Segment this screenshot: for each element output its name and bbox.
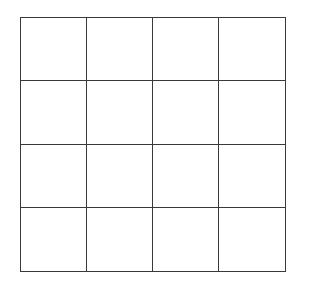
board-cell-r0-c3[interactable] <box>219 18 285 81</box>
board-cell-r2-c2[interactable] <box>153 145 219 208</box>
board-cell-r3-c3[interactable] <box>219 208 285 271</box>
game-board <box>20 17 286 272</box>
board-cell-r0-c2[interactable] <box>153 18 219 81</box>
board-cell-r2-c3[interactable] <box>219 145 285 208</box>
board-cell-r3-c0[interactable] <box>21 208 87 271</box>
board-cell-r1-c0[interactable] <box>21 81 87 144</box>
board-cell-r2-c0[interactable] <box>21 145 87 208</box>
board-cell-r0-c0[interactable] <box>21 18 87 81</box>
board-cell-r2-c1[interactable] <box>87 145 153 208</box>
board-cell-r1-c2[interactable] <box>153 81 219 144</box>
board-cell-r1-c3[interactable] <box>219 81 285 144</box>
board-cell-r3-c1[interactable] <box>87 208 153 271</box>
board-cell-r3-c2[interactable] <box>153 208 219 271</box>
board-cell-r1-c1[interactable] <box>87 81 153 144</box>
board-cell-r0-c1[interactable] <box>87 18 153 81</box>
